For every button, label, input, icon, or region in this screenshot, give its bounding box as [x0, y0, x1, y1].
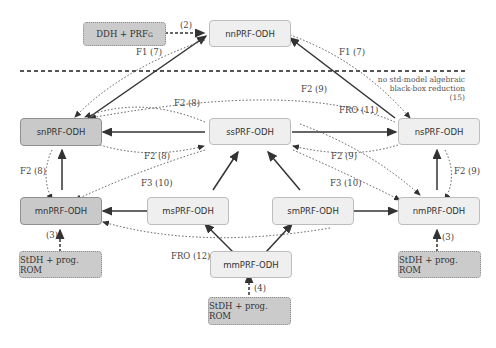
node-label: StDH + prog. ROM [399, 255, 480, 275]
node-stdh-bottom: StDH + prog. ROM [208, 297, 291, 325]
note-line-3: (15) [370, 93, 465, 102]
node-label: StDH + prog. ROM [209, 301, 290, 321]
reduction-diagram: DDH + PRFG nnPRF-ODH snPRF-ODH ssPRF-ODH… [0, 0, 496, 348]
node-nnprf-odh: nnPRF-ODH [209, 20, 291, 47]
edge-label-f2-9-mid: F2 (9) [331, 151, 357, 161]
node-label: DDH + PRF [96, 29, 148, 39]
node-label: StDH + prog. ROM [20, 255, 101, 275]
note-line-1: no std-model algebraic [370, 75, 465, 84]
edge-label-fro-12: FRO (12) [171, 251, 210, 261]
node-nsprf-odh: nsPRF-ODH [398, 118, 480, 145]
edge-label-f2-9-top: F2 (9) [301, 84, 327, 94]
node-mmprf-odh: mmPRF-ODH [210, 251, 292, 278]
node-label: ssPRF-ODH [226, 127, 274, 137]
node-msprf-odh: msPRF-ODH [147, 197, 229, 225]
node-snprf-odh: snPRF-ODH [20, 118, 102, 146]
edge-label-2: (2) [180, 20, 192, 30]
edge-label-3-left: (3) [46, 230, 58, 240]
node-nmprf-odh: nmPRF-ODH [398, 197, 480, 225]
edge-label-f3-10-left: F3 (10) [141, 178, 172, 188]
edge-label-f2-9-right: F2 (9) [454, 166, 480, 176]
separator-note: no std-model algebraic black-box reducti… [370, 75, 465, 102]
edge-label-3-right: (3) [442, 232, 454, 242]
node-ddh-prf: DDH + PRFG [83, 22, 166, 46]
edges-layer [0, 0, 496, 348]
edge-label-fro-11: FRO (11) [339, 105, 378, 115]
edge-label-f1-right: F1 (7) [339, 47, 365, 57]
node-label: mmPRF-ODH [223, 260, 278, 270]
node-label: nsPRF-ODH [415, 127, 464, 137]
node-label: nnPRF-ODH [225, 29, 275, 39]
edge-label-f2-8-top: F2 (8) [174, 98, 200, 108]
node-label: msPRF-ODH [162, 206, 214, 216]
edge-label-f3-10-right: F3 (10) [330, 178, 361, 188]
node-label: snPRF-ODH [37, 127, 86, 137]
node-stdh-right: StDH + prog. ROM [398, 251, 481, 278]
node-smprf-odh: smPRF-ODH [272, 197, 354, 225]
node-label: smPRF-ODH [287, 206, 339, 216]
node-label: mnPRF-ODH [35, 206, 88, 216]
note-line-2: black-box reduction [370, 84, 465, 93]
node-stdh-left: StDH + prog. ROM [19, 251, 102, 278]
node-ssprf-odh: ssPRF-ODH [209, 118, 291, 145]
node-label-sub: G [148, 31, 153, 38]
node-mnprf-odh: mnPRF-ODH [20, 197, 102, 225]
edge-label-f2-8-mid: F2 (8) [144, 151, 170, 161]
edge-label-f1-left: F1 (7) [136, 47, 162, 57]
edge-label-f2-8-left: F2 (8) [20, 166, 46, 176]
edge-label-4: (4) [254, 283, 266, 293]
node-label: nmPRF-ODH [413, 206, 466, 216]
